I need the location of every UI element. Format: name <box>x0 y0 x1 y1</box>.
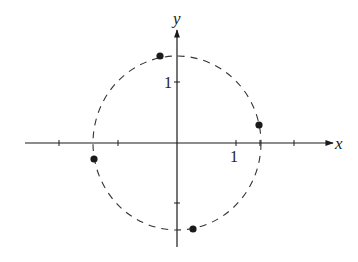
point-bottom <box>189 225 196 232</box>
y-tick-label-1: 1 <box>164 74 172 91</box>
point-left <box>90 155 97 162</box>
x-tick-label-1: 1 <box>230 148 238 165</box>
y-axis-label: y <box>171 9 181 28</box>
x-axis-label: x <box>334 134 343 153</box>
point-top <box>156 52 163 59</box>
point-right <box>255 121 262 128</box>
diagram-canvas: y x 1 1 <box>0 0 358 262</box>
